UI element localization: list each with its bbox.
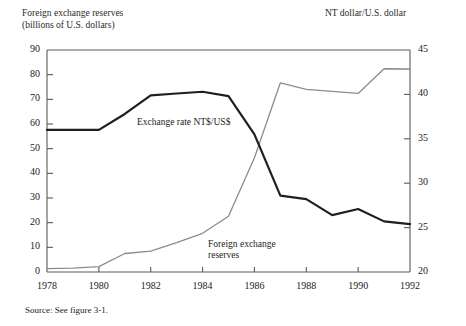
- y2-axis-tick-label: 25: [418, 221, 444, 232]
- x-axis-tick-label: 1992: [390, 280, 430, 291]
- plot-frame: [47, 50, 410, 272]
- x-axis-tick-label: 1984: [183, 280, 223, 291]
- y2-axis-tick-label: 20: [418, 265, 444, 276]
- x-axis-tick-label: 1980: [79, 280, 119, 291]
- y-axis-tick-label: 50: [14, 142, 40, 153]
- y2-axis-tick-label: 40: [418, 87, 444, 98]
- x-axis-tick-label: 1978: [27, 280, 67, 291]
- axis-ticks: [47, 75, 410, 272]
- series-line: [47, 69, 410, 269]
- y-axis-tick-label: 30: [14, 191, 40, 202]
- y-axis-tick-label: 80: [14, 68, 40, 79]
- x-axis-tick-label: 1982: [131, 280, 171, 291]
- y-axis-tick-label: 10: [14, 240, 40, 251]
- y-axis-tick-label: 20: [14, 216, 40, 227]
- x-axis-tick-label: 1986: [234, 280, 274, 291]
- y2-axis-tick-label: 30: [418, 176, 444, 187]
- x-axis-tick-label: 1988: [286, 280, 326, 291]
- figure-container: Foreign exchange reserves(billions of U.…: [0, 0, 466, 326]
- y-axis-tick-label: 90: [14, 43, 40, 54]
- y2-axis-tick-label: 45: [418, 43, 444, 54]
- y-axis-tick-label: 70: [14, 92, 40, 103]
- y-axis-tick-label: 40: [14, 166, 40, 177]
- y2-axis-tick-label: 35: [418, 132, 444, 143]
- x-axis-tick-label: 1990: [338, 280, 378, 291]
- plot-area: [0, 0, 466, 326]
- y-axis-tick-label: 60: [14, 117, 40, 128]
- series-line: [47, 92, 410, 224]
- y-axis-tick-label: 0: [14, 265, 40, 276]
- data-lines: [47, 69, 410, 269]
